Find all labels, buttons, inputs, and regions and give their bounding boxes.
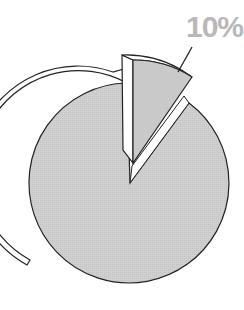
leader-line [178,47,192,72]
slice-label-10pct: 10% [186,10,243,44]
pie-chart [0,0,244,310]
